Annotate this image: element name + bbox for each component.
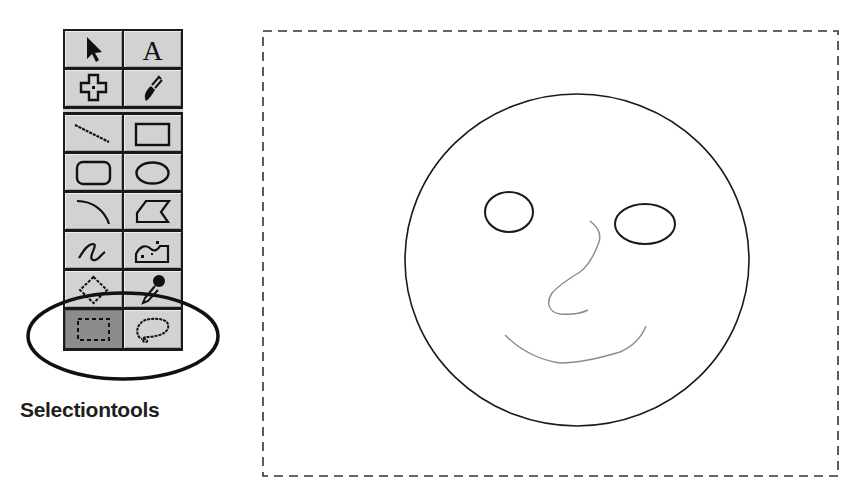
eraser-tool-button[interactable] xyxy=(65,271,122,307)
arrow-tool-button[interactable] xyxy=(65,31,122,67)
arc-icon xyxy=(65,193,122,229)
drawing-canvas[interactable] xyxy=(262,30,838,476)
eyedropper-tool-button[interactable] xyxy=(124,271,181,307)
selection-tools-caption: Selectiontools xyxy=(20,398,159,422)
spray-paint-tool-button[interactable] xyxy=(124,232,181,268)
letter-a-icon: A xyxy=(124,31,181,67)
rounded-rectangle-icon xyxy=(65,154,122,190)
lasso-icon xyxy=(124,310,181,348)
spray-paint-icon xyxy=(124,232,181,268)
polygon-tool-button[interactable] xyxy=(124,193,181,229)
diamond-eraser-icon xyxy=(65,271,122,307)
line-icon xyxy=(65,115,122,151)
rectangle-icon xyxy=(124,115,181,151)
rounded-rectangle-tool-button[interactable] xyxy=(65,154,122,190)
svg-text:A: A xyxy=(142,35,163,66)
arrow-pointer-icon xyxy=(65,31,122,67)
text-tool-button[interactable]: A xyxy=(124,31,181,67)
paintbrush-icon xyxy=(124,70,181,106)
freehand-icon xyxy=(65,232,122,268)
rectangle-tool-button[interactable] xyxy=(124,115,181,151)
marquee-icon xyxy=(65,310,122,348)
arc-tool-button[interactable] xyxy=(65,193,122,229)
marquee-selection-tool-button[interactable] xyxy=(65,310,122,348)
paintbrush-tool-button[interactable] xyxy=(124,70,181,106)
line-tool-button[interactable] xyxy=(65,115,122,151)
oval-tool-button[interactable] xyxy=(124,154,181,190)
cross-move-icon xyxy=(65,70,122,106)
palette-separator xyxy=(63,108,183,113)
tool-palette: A xyxy=(63,29,183,351)
oval-icon xyxy=(124,154,181,190)
move-tool-button[interactable] xyxy=(65,70,122,106)
eyedropper-icon xyxy=(124,271,181,307)
polygon-icon xyxy=(124,193,181,229)
freehand-tool-button[interactable] xyxy=(65,232,122,268)
lasso-selection-tool-button[interactable] xyxy=(124,310,181,348)
